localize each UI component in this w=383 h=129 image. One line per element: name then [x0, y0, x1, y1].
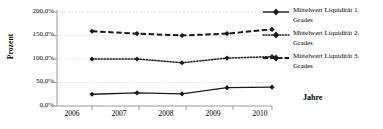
legend-item-series-1[interactable]: Mittelwert Liquidität 1.Grades: [262, 6, 383, 25]
data-point: [224, 55, 229, 60]
legend-marker-solid-icon: [262, 8, 290, 16]
data-point: [134, 56, 139, 61]
legend-marker-dotted-icon: [262, 31, 290, 39]
legend-label: Mittelwert Liquidität 3.Grades: [293, 52, 383, 71]
series-1: [89, 85, 274, 97]
data-point: [224, 31, 229, 36]
legend-label: Mittelwert Liquidität 1.Grades: [293, 6, 383, 25]
legend-item-series-3[interactable]: Mittelwert Liquidität 3.Grades: [262, 52, 383, 71]
chart-legend: Mittelwert Liquidität 1.Grades Mittelwer…: [262, 6, 383, 75]
y-axis-ticks: [53, 12, 57, 106]
legend-marker-dashed-icon: [262, 54, 290, 62]
legend-item-series-2[interactable]: Mittelwert Liquidität 2.Grades: [262, 29, 383, 48]
data-point: [179, 33, 184, 38]
data-point: [224, 85, 229, 90]
data-point: [269, 85, 274, 90]
series-layer: [89, 27, 274, 97]
data-point: [134, 31, 139, 36]
series-3: [89, 27, 274, 38]
legend-label: Mittelwert Liquidität 2.Grades: [293, 29, 383, 48]
x-axis-ticks: [92, 106, 272, 110]
data-point: [89, 56, 94, 61]
gridlines: [57, 12, 272, 83]
data-point: [89, 92, 94, 97]
liquidity-line-chart: Prozent Jahre 200,0% 150,0% 100,0% 50,0%…: [0, 0, 383, 129]
data-point: [89, 29, 94, 34]
data-point: [134, 90, 139, 95]
data-point: [179, 91, 184, 96]
data-point: [179, 60, 184, 65]
series-2: [89, 54, 274, 65]
